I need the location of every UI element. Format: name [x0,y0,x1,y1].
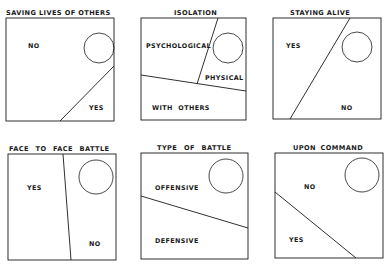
divider-line [275,192,356,258]
panel-staying-alive [273,18,381,119]
circle-marker [209,159,243,193]
region-label-no: NO [89,240,101,248]
circle-marker [342,32,372,62]
panel-title-staying-alive: STAYING ALIVE [290,9,350,17]
region-label-no: NO [28,42,40,50]
region-label-with-others: WITH OTHERS [152,104,210,112]
panel-title-upon-command: UPON COMMAND [293,144,363,152]
diagram-stage: SAVING LIVES OF OTHERS NO YES ISOLATION … [0,0,389,267]
region-label-psychological: PSYCHOLOGICAL [146,42,211,50]
region-label-physical: PHYSICAL [205,74,244,82]
region-label-yes: YES [286,42,301,50]
region-label-no: NO [341,104,353,112]
circle-marker [345,158,379,192]
divider-line [141,196,248,228]
divider-line [63,154,71,260]
panel-title-isolation: ISOLATION [174,9,217,17]
region-label-yes: YES [289,236,304,244]
panel-title-face-to-face-battle: FACE TO FACE BATTLE [9,145,109,153]
region-label-no: NO [304,183,316,191]
region-label-yes: YES [89,104,104,112]
divider-line [60,66,114,121]
circle-marker [84,33,114,63]
panel-drawings [0,0,389,267]
circle-marker [213,33,243,63]
circle-marker [79,160,113,194]
panel-title-saving-lives: SAVING LIVES OF OTHERS [6,9,111,17]
region-label-offensive: OFFENSIVE [155,184,199,192]
region-label-yes: YES [27,184,42,192]
panel-title-type-of-battle: TYPE OF BATTLE [157,144,231,152]
panel-frame [273,18,381,119]
region-label-defensive: DEFENSIVE [155,237,199,245]
